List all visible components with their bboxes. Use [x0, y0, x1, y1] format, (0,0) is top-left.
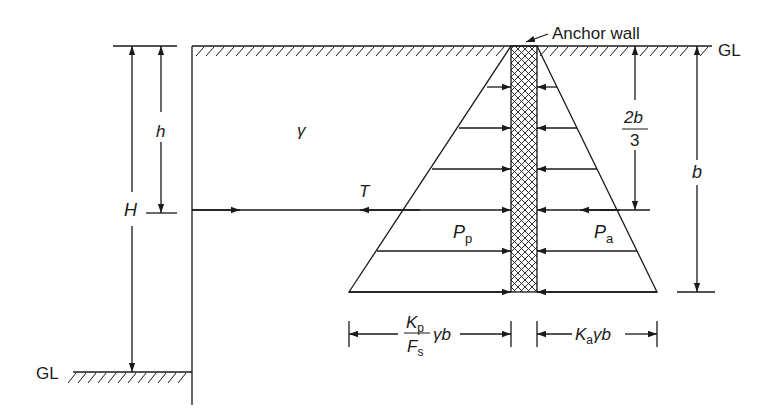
label-h: h: [156, 122, 165, 141]
label-anchor-wall: Anchor wall: [552, 24, 640, 43]
label-H: H: [124, 200, 138, 220]
label-gl-top: GL: [718, 41, 741, 60]
label-active-force: Pa: [594, 222, 614, 246]
label-tension: T: [359, 182, 371, 201]
label-3: 3: [630, 131, 639, 150]
anchor-wall-pointer: [526, 34, 548, 42]
label-passive-width-numerator: Kp: [406, 313, 424, 335]
label-active-width: Kaγb: [575, 325, 611, 347]
anchor-wall: [511, 46, 537, 292]
label-passive-width-tail: γb: [433, 325, 451, 344]
label-passive-force: Pp: [453, 222, 472, 246]
label-passive-width-denominator: Fs: [407, 337, 423, 359]
label-gl-bottom: GL: [36, 364, 59, 383]
label-unit-weight: γ: [297, 121, 307, 140]
ground-hatch-top: [196, 47, 708, 56]
anchor-wall-diagram: Anchor wall GL GL γ T H h b 2b 3 Pp Pa K…: [0, 0, 782, 416]
diagram-svg: Anchor wall GL GL γ T H h b 2b 3 Pp Pa K…: [0, 0, 782, 416]
label-b: b: [692, 162, 702, 182]
ground-hatch-bottom: [68, 373, 186, 383]
label-2b: 2b: [623, 108, 643, 127]
